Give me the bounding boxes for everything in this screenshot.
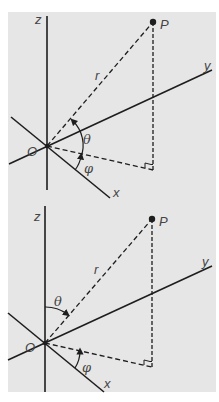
projection-horizontal: [47, 146, 153, 170]
origin-point: [43, 341, 47, 345]
spherical-coordinates-diagram: z y x r P O θ φ z y: [0, 0, 219, 402]
origin-label: O: [25, 340, 35, 355]
right-angle-marker: [145, 163, 153, 168]
z-axis-label: z: [34, 12, 42, 27]
x-axis-label: x: [112, 185, 120, 200]
y-axis: [8, 266, 212, 360]
radius-line: [45, 219, 152, 343]
phi-label: φ: [82, 360, 92, 375]
phi-arc: [75, 351, 80, 368]
radius-label: r: [95, 68, 100, 83]
origin-label: O: [27, 144, 37, 159]
radius-label: r: [94, 262, 99, 277]
phi-arc: [75, 156, 81, 170]
theta-label: θ: [83, 132, 91, 147]
x-axis-label: x: [103, 376, 111, 391]
theta-label: θ: [54, 294, 62, 309]
phi-label: φ: [84, 161, 94, 176]
y-axis: [9, 70, 212, 164]
point-p: [150, 19, 156, 25]
right-angle-marker: [144, 360, 152, 365]
point-p-label: P: [159, 214, 168, 229]
radius-line: [47, 22, 153, 146]
point-p: [149, 216, 155, 222]
origin-point: [45, 144, 49, 148]
projection-horizontal: [45, 343, 152, 367]
z-axis-label: z: [33, 209, 41, 224]
point-p-label: P: [160, 17, 169, 32]
bottom-diagram: z y x r P O θ φ: [8, 206, 212, 392]
top-diagram: z y x r P O θ φ: [9, 12, 212, 200]
